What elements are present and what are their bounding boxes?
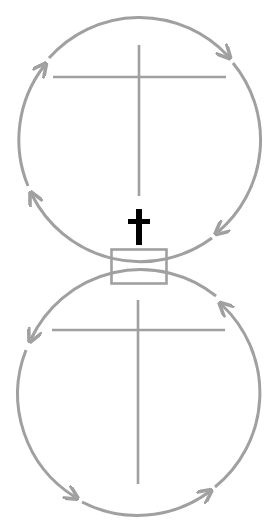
bottom-arc-right <box>215 305 260 487</box>
top-inner-cross-lines <box>53 45 226 196</box>
cycle-diagram <box>0 0 274 532</box>
bottom-arc-lower <box>82 492 209 515</box>
top-arc-lower <box>32 195 212 262</box>
top-arc-left <box>19 66 44 186</box>
christian-cross-icon <box>128 209 150 245</box>
bottom-arc-left <box>18 350 75 497</box>
top-arc-right <box>218 63 261 232</box>
junction-box <box>112 250 167 284</box>
bottom-inner-cross-lines <box>52 300 225 484</box>
bottom-arc-upper <box>31 270 216 339</box>
